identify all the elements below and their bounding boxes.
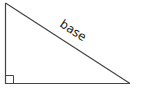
right-triangle: [5, 3, 130, 84]
triangle-diagram: base: [0, 0, 144, 90]
hypotenuse: [6, 3, 131, 84]
right-angle-marker: [6, 76, 14, 84]
